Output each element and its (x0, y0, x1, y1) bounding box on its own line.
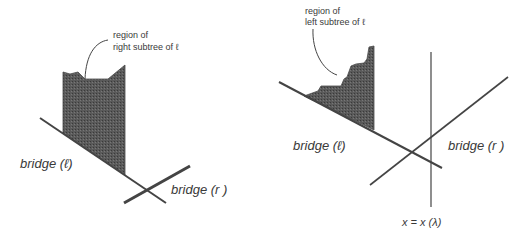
left-panel: region of right subtree of ℓ bridge (ℓ) … (20, 30, 227, 203)
annotation-line1: region of (113, 30, 149, 40)
annotation-line2: left subtree of ℓ (305, 17, 366, 27)
annotation-pointer (85, 40, 108, 79)
bridge-l-label: bridge (ℓ) (293, 138, 346, 153)
right-panel: region of left subtree of ℓ bridge (ℓ) b… (279, 6, 508, 228)
vertical-line-label: x = x (λ) (401, 216, 442, 228)
bridge-l-label: bridge (ℓ) (20, 156, 73, 171)
left-subtree-region (304, 46, 374, 130)
bridge-r-label: bridge (r ) (171, 182, 227, 197)
bridge-subtree-diagram: region of right subtree of ℓ bridge (ℓ) … (0, 0, 529, 241)
annotation-line2: right subtree of ℓ (113, 42, 180, 52)
annotation-pointer (313, 29, 337, 75)
bridge-r-label: bridge (r ) (448, 138, 504, 153)
bridge-r-line (370, 77, 508, 185)
annotation-line1: region of (305, 6, 341, 16)
